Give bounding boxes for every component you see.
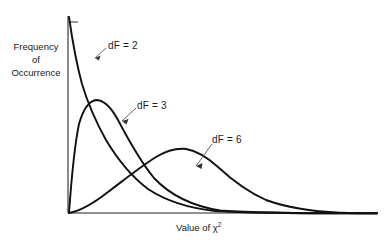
x-axis-label-prefix: Value of — [176, 222, 213, 233]
plot-canvas — [0, 0, 390, 245]
x-axis-label: Value of χ2 — [176, 222, 221, 233]
leader-line-df-3 — [122, 108, 136, 121]
chi-square-distribution-figure: Frequency of Occurrence Value of χ2 dF =… — [0, 0, 390, 245]
chi-exponent: 2 — [218, 221, 222, 228]
curve-df-3 — [69, 100, 377, 213]
curve-label-df-2: dF = 2 — [108, 40, 138, 51]
leader-line-df-2 — [95, 48, 106, 58]
y-axis-label-line-3: Occurrence — [6, 66, 66, 79]
y-axis-label-line-1: Frequency — [6, 40, 66, 53]
y-axis-label: Frequency of Occurrence — [6, 40, 66, 79]
arrowhead-df-2 — [95, 56, 101, 61]
curve-label-df-3: dF = 3 — [137, 100, 167, 111]
leader-line-df-6 — [196, 144, 212, 166]
curve-df-6 — [69, 149, 377, 213]
y-axis-label-line-2: of — [6, 53, 66, 66]
curve-label-df-6: dF = 6 — [212, 134, 242, 145]
